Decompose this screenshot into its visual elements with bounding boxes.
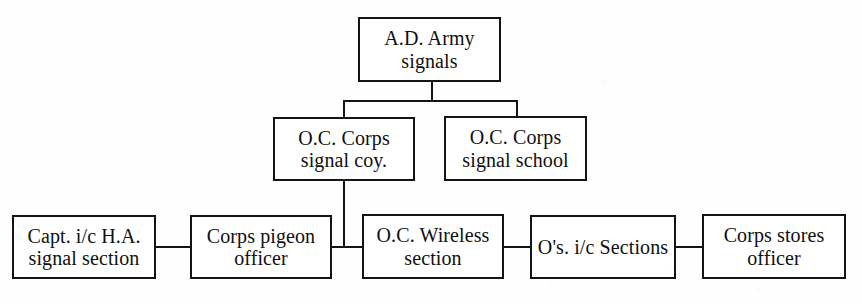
- node-label-os-ic-sections: O's. i/c Sections: [534, 236, 672, 258]
- node-label-oc-corps-signal-coy: O.C. Corps signal coy.: [294, 127, 394, 172]
- node-label-ad-army-signals: A.D. Army signals: [380, 27, 478, 72]
- connector-level2-bus: [343, 100, 518, 102]
- node-oc-wireless-section[interactable]: O.C. Wireless section: [362, 214, 504, 279]
- node-oc-corps-signal-school[interactable]: O.C. Corps signal school: [444, 116, 587, 181]
- node-corps-pigeon-officer[interactable]: Corps pigeon officer: [190, 215, 332, 279]
- node-os-ic-sections[interactable]: O's. i/c Sections: [530, 215, 676, 279]
- node-oc-corps-signal-coy[interactable]: O.C. Corps signal coy.: [273, 117, 415, 181]
- connector-top-stub: [431, 81, 433, 102]
- node-ad-army-signals[interactable]: A.D. Army signals: [358, 17, 501, 82]
- node-label-oc-wireless-section: O.C. Wireless section: [373, 224, 494, 269]
- connector-wireless-to-sections: [503, 246, 531, 248]
- connector-drop-signal-school: [516, 100, 518, 117]
- connector-capt-to-pigeon: [155, 246, 191, 248]
- connector-drop-to-level3: [343, 180, 345, 247]
- node-corps-stores-officer[interactable]: Corps stores officer: [702, 214, 846, 279]
- connector-drop-signal-coy: [343, 100, 345, 118]
- node-label-corps-pigeon-officer: Corps pigeon officer: [203, 225, 319, 270]
- connector-pigeon-to-wireless: [331, 246, 363, 248]
- connector-sections-to-stores: [675, 246, 703, 248]
- node-label-capt-ic-ha-signal-section: Capt. i/c H.A. signal section: [23, 225, 144, 270]
- node-label-oc-corps-signal-school: O.C. Corps signal school: [458, 126, 572, 171]
- node-label-corps-stores-officer: Corps stores officer: [720, 224, 829, 269]
- node-capt-ic-ha-signal-section[interactable]: Capt. i/c H.A. signal section: [12, 215, 156, 279]
- organisation-chart: A.D. Army signals O.C. Corps signal coy.…: [0, 0, 862, 304]
